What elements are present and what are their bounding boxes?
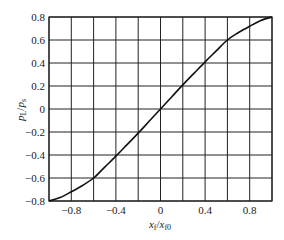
x-tick-label: 0.8 (243, 204, 257, 216)
y-tick-label: 0.2 (31, 80, 45, 92)
x-tick-label: 0.4 (198, 204, 212, 216)
y-tick-label: 0.8 (31, 11, 45, 23)
y-tick-label: 0 (40, 103, 46, 115)
y-tick-label: −0.2 (25, 126, 45, 138)
x-axis-label: xf/xf0 (148, 218, 171, 232)
y-tick-label: −0.4 (25, 149, 45, 161)
y-axis-label: pL/ps (14, 99, 28, 122)
x-tick-label: −0.8 (61, 204, 81, 216)
y-tick-label: −0.8 (25, 195, 45, 207)
y-axis-ticks: 0.80.60.40.20−0.2−0.4−0.6−0.8 (25, 11, 45, 207)
line-chart: 0.80.60.40.20−0.2−0.4−0.6−0.8 −0.8−0.400… (0, 0, 284, 240)
x-tick-label: 0 (158, 204, 164, 216)
y-tick-label: 0.4 (31, 57, 45, 69)
x-tick-label: −0.4 (106, 204, 126, 216)
y-tick-label: −0.6 (25, 172, 45, 184)
x-axis-ticks: −0.8−0.400.40.8 (61, 204, 257, 216)
y-tick-label: 0.6 (31, 34, 45, 46)
